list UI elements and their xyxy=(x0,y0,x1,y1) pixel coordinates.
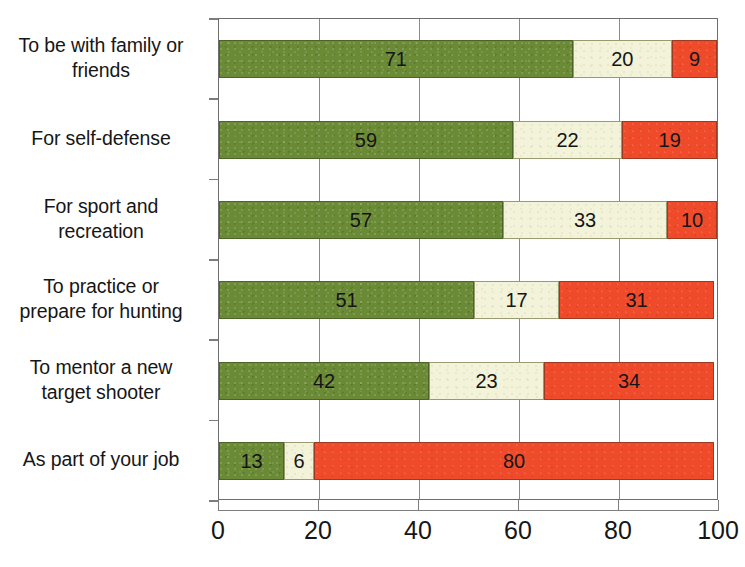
bar-row: 422334 xyxy=(219,362,717,400)
x-tick-label-100: 100 xyxy=(697,518,739,543)
bar-segment-value: 13 xyxy=(240,451,262,471)
bar-segment-value: 9 xyxy=(689,49,700,69)
x-tick-label-60: 60 xyxy=(504,518,532,543)
bar-segment-value: 6 xyxy=(293,451,304,471)
bar-segment-cream: 17 xyxy=(474,281,559,319)
category-label-line: recreation xyxy=(0,219,202,244)
bar-segment-value: 10 xyxy=(681,210,703,230)
y-tick-stub xyxy=(209,179,218,181)
bar-segment-value: 57 xyxy=(350,210,372,230)
x-tick-20 xyxy=(318,500,319,511)
bar-segment-value: 71 xyxy=(385,49,407,69)
bar-segment-cream: 33 xyxy=(503,201,667,239)
bar-segment-cream: 23 xyxy=(429,362,544,400)
category-label-line: To practice or xyxy=(0,274,202,299)
bar-segment-red: 10 xyxy=(667,201,717,239)
gridline-60 xyxy=(519,19,520,499)
category-label-line: prepare for hunting xyxy=(0,299,202,324)
category-label-line: friends xyxy=(0,58,202,83)
x-tick-0 xyxy=(218,500,219,511)
x-tick-label-0: 0 xyxy=(211,518,225,543)
category-label-line: To mentor a new xyxy=(0,355,202,380)
y-tick-stub xyxy=(209,98,218,100)
bar-segment-red: 19 xyxy=(622,121,717,159)
bar-segment-value: 34 xyxy=(618,371,640,391)
bar-segment-green: 13 xyxy=(219,442,284,480)
bar-segment-value: 80 xyxy=(503,451,525,471)
bar-segment-red: 34 xyxy=(544,362,714,400)
plot-area: 7120959221957331051173142233413680 xyxy=(218,18,718,500)
category-label: To mentor a newtarget shooter xyxy=(0,355,202,405)
bar-segment-cream: 20 xyxy=(573,40,673,78)
category-label-line: To be with family or xyxy=(0,33,202,58)
category-label: As part of your job xyxy=(0,447,202,472)
y-tick-stub xyxy=(209,420,218,422)
x-axis-line xyxy=(218,510,718,511)
bar-segment-value: 33 xyxy=(574,210,596,230)
bar-segment-cream: 6 xyxy=(284,442,314,480)
stacked-bar-chart: To be with family orfriendsFor self-defe… xyxy=(0,0,745,567)
category-label: For sport andrecreation xyxy=(0,194,202,244)
y-tick-stub xyxy=(209,500,218,502)
bar-segment-value: 31 xyxy=(625,290,647,310)
y-tick-stub xyxy=(209,18,218,20)
bar-segment-green: 42 xyxy=(219,362,429,400)
bar-segment-value: 20 xyxy=(611,49,633,69)
x-tick-40 xyxy=(418,500,419,511)
category-label-line: As part of your job xyxy=(0,447,202,472)
x-tick-label-80: 80 xyxy=(604,518,632,543)
gridline-80 xyxy=(619,19,620,499)
bar-row: 13680 xyxy=(219,442,717,480)
category-label-line: For self-defense xyxy=(0,126,202,151)
gridline-40 xyxy=(419,19,420,499)
y-tick-stub xyxy=(209,339,218,341)
bar-row: 592219 xyxy=(219,121,717,159)
category-label: To be with family orfriends xyxy=(0,33,202,83)
bar-segment-value: 59 xyxy=(355,130,377,150)
bar-segment-cream: 22 xyxy=(513,121,623,159)
bar-segment-value: 42 xyxy=(313,371,335,391)
bar-segment-green: 59 xyxy=(219,121,513,159)
x-tick-60 xyxy=(518,500,519,511)
bar-row: 71209 xyxy=(219,40,717,78)
category-axis-labels: To be with family orfriendsFor self-defe… xyxy=(0,18,210,500)
category-label: To practice orprepare for hunting xyxy=(0,274,202,324)
gridline-20 xyxy=(319,19,320,499)
bar-segment-value: 17 xyxy=(505,290,527,310)
bar-row: 573310 xyxy=(219,201,717,239)
category-label-line: For sport and xyxy=(0,194,202,219)
bar-segment-value: 51 xyxy=(335,290,357,310)
bar-segment-value: 23 xyxy=(475,371,497,391)
bar-row: 511731 xyxy=(219,281,717,319)
category-label: For self-defense xyxy=(0,126,202,151)
bar-segment-value: 19 xyxy=(659,130,681,150)
bar-segment-red: 9 xyxy=(672,40,717,78)
bar-segment-green: 71 xyxy=(219,40,573,78)
y-tick-stub xyxy=(209,259,218,261)
x-tick-label-20: 20 xyxy=(304,518,332,543)
bar-segment-value: 22 xyxy=(556,130,578,150)
x-tick-100 xyxy=(718,500,719,511)
bar-segment-red: 31 xyxy=(559,281,714,319)
bar-segment-red: 80 xyxy=(314,442,714,480)
x-tick-label-40: 40 xyxy=(404,518,432,543)
bar-segment-green: 57 xyxy=(219,201,503,239)
x-tick-80 xyxy=(618,500,619,511)
category-label-line: target shooter xyxy=(0,380,202,405)
bar-segment-green: 51 xyxy=(219,281,474,319)
